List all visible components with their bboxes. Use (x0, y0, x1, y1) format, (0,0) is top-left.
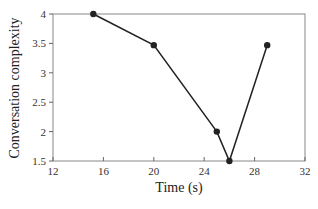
data-markers (90, 11, 270, 164)
x-tick-label: 32 (300, 165, 311, 177)
x-tick-label: 20 (148, 165, 160, 177)
line-chart: 1.522.533.54 121620242832 Time (s) Conve… (0, 0, 318, 209)
y-tick-label: 2 (41, 126, 47, 138)
y-tick-label: 1.5 (32, 155, 46, 167)
y-tick-label: 3 (41, 67, 47, 79)
x-axis-ticks: 121620242832 (48, 157, 311, 177)
y-tick-label: 3.5 (32, 37, 46, 49)
data-point (264, 42, 270, 48)
y-axis-label: Conversation complexity (7, 17, 22, 158)
data-point (151, 42, 157, 48)
x-tick-label: 28 (249, 165, 261, 177)
data-point (90, 11, 96, 17)
y-tick-label: 2.5 (32, 96, 46, 108)
data-point (214, 128, 220, 134)
x-axis-label: Time (s) (155, 180, 203, 196)
x-tick-label: 24 (199, 165, 211, 177)
plot-frame (53, 14, 305, 161)
y-axis-ticks: 1.522.533.54 (32, 8, 53, 167)
y-tick-label: 4 (41, 8, 47, 20)
x-tick-label: 16 (98, 165, 110, 177)
x-tick-label: 12 (48, 165, 59, 177)
data-line (93, 14, 267, 161)
data-point (226, 158, 232, 164)
